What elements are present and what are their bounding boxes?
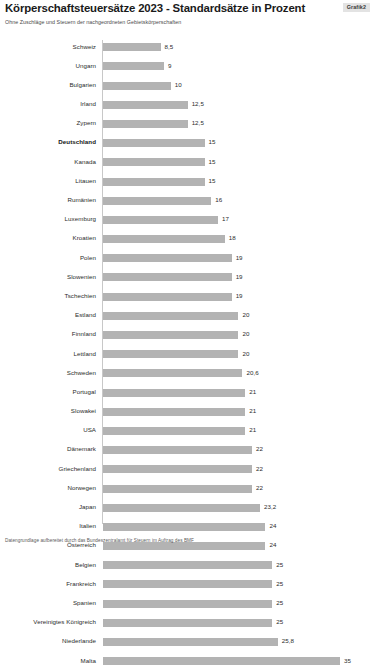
bar: [103, 62, 164, 70]
bar-category-label: Rumänien: [67, 196, 96, 203]
bar-category-label: Frankreich: [66, 580, 96, 587]
bar: [103, 369, 242, 377]
bar-category-label: Luxemburg: [65, 215, 96, 222]
bar-category-label: Portugal: [73, 388, 96, 395]
bar: [103, 82, 171, 90]
bar-category-label: Litauen: [75, 177, 96, 184]
bar-row: Tschechien19: [0, 287, 373, 306]
bar-row: Lettland20: [0, 345, 373, 364]
bar-row: Polen19: [0, 249, 373, 268]
bar-row: Litauen15: [0, 172, 373, 191]
source-note: Datengrundlage aufbereitet durch das Bun…: [5, 538, 194, 543]
chart-subtitle: Ohne Zuschläge und Steuern der nachgeord…: [5, 19, 181, 25]
bar-row: Zypern12,5: [0, 115, 373, 134]
bar: [103, 485, 252, 493]
bar-category-label: Griechenland: [59, 465, 96, 472]
bar-category-label: Estland: [75, 311, 96, 318]
bar-value-label: 24: [269, 522, 276, 529]
bar-category-label: Lettland: [74, 350, 96, 357]
bar-value-label: 20: [242, 311, 249, 318]
bar-value-label: 10: [175, 81, 182, 88]
graphic-number-badge: Grafik2: [343, 3, 370, 12]
bar-category-label: Slowakei: [71, 407, 96, 414]
bar-value-label: 22: [256, 465, 263, 472]
bar-row: Schweden20,6: [0, 364, 373, 383]
bar: [103, 427, 245, 435]
bar: [103, 465, 252, 473]
bar: [103, 561, 272, 569]
bar-category-label: Finnland: [72, 330, 96, 337]
bar-value-label: 19: [236, 273, 243, 280]
bar-row: Schweiz8,5: [0, 38, 373, 57]
bar-category-label: Ungarn: [75, 62, 96, 69]
bar-row: Belgien25: [0, 556, 373, 575]
bar: [103, 350, 238, 358]
bar-category-label: Schweiz: [73, 43, 96, 50]
bar-row: Griechenland22: [0, 460, 373, 479]
bar: [103, 293, 232, 301]
bar-value-label: 19: [236, 292, 243, 299]
bar-value-label: 15: [209, 177, 216, 184]
bar-value-label: 20: [242, 330, 249, 337]
bar-category-label: Norwegen: [67, 484, 96, 491]
bar-row: Norwegen22: [0, 479, 373, 498]
bar: [103, 254, 232, 262]
bar-category-label: Slowenien: [67, 273, 96, 280]
bar-row: Irland12,5: [0, 96, 373, 115]
bar-value-label: 19: [236, 254, 243, 261]
bar-category-label: Kanada: [74, 158, 96, 165]
bar: [103, 216, 218, 224]
bar-value-label: 8,5: [165, 43, 174, 50]
bar: [103, 235, 225, 243]
bar-row: Estland20: [0, 307, 373, 326]
bar-row: Rumänien16: [0, 192, 373, 211]
bar: [103, 638, 278, 646]
bar: [103, 523, 265, 531]
bar-category-label: Belgien: [75, 561, 96, 568]
chart-header: Körperschaftsteuersätze 2023 - Standards…: [0, 0, 373, 33]
bar: [103, 580, 272, 588]
bar: [103, 120, 188, 128]
bar-value-label: 12,5: [192, 119, 204, 126]
bar-row: Italien24: [0, 518, 373, 537]
bar-category-label: Spanien: [73, 599, 96, 606]
bar-value-label: 25: [276, 561, 283, 568]
bar-value-label: 25: [276, 580, 283, 587]
bar-value-label: 15: [209, 158, 216, 165]
bar-category-label: Zypern: [76, 119, 96, 126]
bar-category-label: Tschechien: [65, 292, 96, 299]
bar-value-label: 25,8: [282, 637, 294, 644]
bar: [103, 619, 272, 627]
bar: [103, 43, 161, 51]
bar-value-label: 21: [249, 407, 256, 414]
bar-value-label: 12,5: [192, 100, 204, 107]
bar: [103, 408, 245, 416]
bar-row: Luxemburg17: [0, 211, 373, 230]
bar-row: Bulgarien10: [0, 76, 373, 95]
bar-value-label: 22: [256, 484, 263, 491]
bar-category-label: Kroatien: [73, 234, 96, 241]
bar: [103, 178, 205, 186]
bar-row: Spanien25: [0, 594, 373, 613]
bar-value-label: 17: [222, 215, 229, 222]
bar-row: USA21: [0, 422, 373, 441]
bar-value-label: 25: [276, 599, 283, 606]
bar-category-label: Japan: [79, 503, 96, 510]
bar-category-label: USA: [83, 426, 96, 433]
bar-value-label: 22: [256, 445, 263, 452]
bar-category-label: Malta: [81, 657, 96, 664]
bar-value-label: 23,2: [264, 503, 276, 510]
bar-rows-container: Schweiz8,5Ungarn9Bulgarien10Irland12,5Zy…: [0, 38, 373, 669]
bar-value-label: 24: [269, 541, 276, 548]
bar-value-label: 15: [209, 138, 216, 145]
bar-value-label: 35: [344, 657, 351, 664]
bar: [103, 657, 340, 665]
bar-category-label: Polen: [80, 254, 96, 261]
bar-value-label: 20: [242, 350, 249, 357]
bar-row: Deutschland15: [0, 134, 373, 153]
bar: [103, 197, 211, 205]
bar-row: Slowakei21: [0, 403, 373, 422]
bar-category-label: Bulgarien: [69, 81, 96, 88]
bar-category-label: Deutschland: [58, 138, 96, 145]
